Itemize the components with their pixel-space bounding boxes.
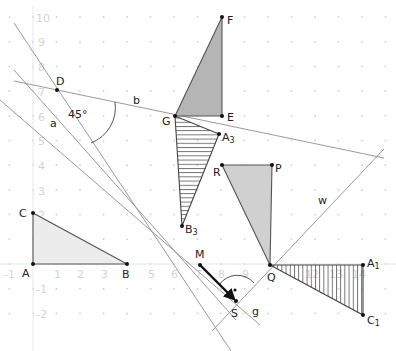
grid-dot xyxy=(291,115,293,117)
point-B[interactable] xyxy=(125,262,129,266)
grid-dot xyxy=(103,41,105,43)
grid-dot xyxy=(103,238,105,240)
grid-dot xyxy=(103,65,105,67)
grid-dot xyxy=(150,140,152,142)
grid-dot xyxy=(361,214,363,216)
point-D[interactable] xyxy=(55,88,59,92)
grid-dot xyxy=(338,164,340,166)
label-B3: B3 xyxy=(185,223,198,237)
point-Q[interactable] xyxy=(268,263,272,267)
grid-dot xyxy=(103,312,105,314)
grid-dot xyxy=(150,65,152,67)
grid-dot xyxy=(103,115,105,117)
grid-dot xyxy=(197,238,199,240)
point-A[interactable] xyxy=(31,262,35,266)
point-S[interactable] xyxy=(234,299,238,303)
grid-dot xyxy=(79,164,81,166)
grid-dot xyxy=(126,16,128,18)
point-G[interactable] xyxy=(173,114,177,118)
grid-dot xyxy=(126,164,128,166)
grid-dot xyxy=(56,312,58,314)
x-tick-2: 2 xyxy=(77,268,84,281)
point-B3[interactable] xyxy=(180,224,184,228)
grid-dot xyxy=(385,214,387,216)
y-tick-10: 10 xyxy=(36,12,50,25)
point-C[interactable] xyxy=(31,211,35,215)
grid-dot xyxy=(150,189,152,191)
grid-dot xyxy=(103,16,105,18)
point-M[interactable] xyxy=(198,263,202,267)
point-C1[interactable] xyxy=(361,313,365,317)
right-angle-dot xyxy=(234,289,237,292)
grid-dot xyxy=(126,90,128,92)
grid-dot xyxy=(314,90,316,92)
y-tick-4: 4 xyxy=(38,160,45,173)
grid-dot xyxy=(150,90,152,92)
grid-dot xyxy=(291,41,293,43)
label-A1: A1 xyxy=(367,257,380,271)
grid-dot xyxy=(314,16,316,18)
grid-dot xyxy=(126,41,128,43)
point-A1[interactable] xyxy=(361,263,365,267)
y-tick-5: 5 xyxy=(38,135,45,148)
grid-dot xyxy=(385,312,387,314)
grid-dot xyxy=(361,115,363,117)
vector-MS xyxy=(200,265,234,299)
label-B: B xyxy=(122,268,130,281)
grid-dot xyxy=(291,140,293,142)
grid-dot xyxy=(314,164,316,166)
grid-dot xyxy=(338,65,340,67)
grid-dot xyxy=(267,115,269,117)
label-line-b: b xyxy=(133,94,140,107)
point-E[interactable] xyxy=(220,114,224,118)
x-tick-9: 9 xyxy=(242,268,249,281)
grid-dot xyxy=(126,115,128,117)
point-P[interactable] xyxy=(270,163,274,167)
grid-dot xyxy=(385,288,387,290)
grid-dot xyxy=(9,214,11,216)
y-tick-7: 7 xyxy=(38,86,45,99)
grid-dot xyxy=(150,214,152,216)
grid-dot xyxy=(314,238,316,240)
label-C: C xyxy=(19,207,27,220)
grid-dot xyxy=(267,140,269,142)
grid-dot xyxy=(244,65,246,67)
grid-dot xyxy=(385,140,387,142)
label-A: A xyxy=(22,267,30,280)
grid-dot xyxy=(126,140,128,142)
grid-dot xyxy=(79,214,81,216)
x-tick-5: 5 xyxy=(148,268,155,281)
grid-dot xyxy=(56,140,58,142)
point-A3[interactable] xyxy=(217,132,221,136)
label-Q: Q xyxy=(267,271,276,284)
grid-dot xyxy=(291,65,293,67)
y-tick-labels: 10 9 8 7 6 5 4 3 2 1 -1 -2 xyxy=(36,12,50,321)
point-F[interactable] xyxy=(220,15,224,19)
grid-dot xyxy=(150,16,152,18)
grid-dot xyxy=(150,115,152,117)
grid-dot xyxy=(9,288,11,290)
grid-dot xyxy=(9,140,11,142)
angle-label: 45° xyxy=(68,108,88,121)
y-tick-6: 6 xyxy=(38,111,45,124)
grid-dot xyxy=(314,312,316,314)
grid-dot xyxy=(385,90,387,92)
grid-dot xyxy=(291,16,293,18)
grid-dot xyxy=(361,41,363,43)
label-S: S xyxy=(231,307,238,320)
grid-dot xyxy=(9,41,11,43)
grid-dot xyxy=(385,115,387,117)
grid-dot xyxy=(56,41,58,43)
grid-dot xyxy=(103,288,105,290)
grid-dot xyxy=(9,312,11,314)
label-line-w: w xyxy=(318,194,327,207)
grid-dot xyxy=(9,90,11,92)
grid-dot xyxy=(103,164,105,166)
grid-dot xyxy=(244,288,246,290)
grid-dot xyxy=(220,238,222,240)
grid-dot xyxy=(385,16,387,18)
grid-dot xyxy=(56,16,58,18)
grid-dot xyxy=(197,288,199,290)
grid-dot xyxy=(79,65,81,67)
grid-dot xyxy=(361,238,363,240)
